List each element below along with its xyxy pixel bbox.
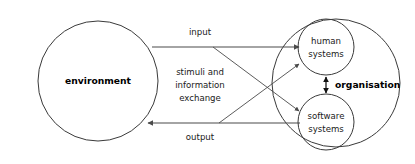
software-systems-label-line-1: software [308, 111, 345, 121]
stimuli-label-line-1: stimuli and [176, 67, 224, 77]
stimuli-label-line-2: information [175, 80, 225, 90]
input-label: input [189, 27, 212, 37]
stimuli-label-line-3: exchange [179, 93, 221, 103]
software-systems-label-line-2: systems [308, 124, 344, 134]
output-label: output [186, 132, 215, 142]
human-systems-circle [298, 19, 354, 75]
exchange-arrow-to-human [219, 64, 299, 123]
exchange-arrow-to-software [213, 47, 299, 111]
organisation-label: organisation [335, 79, 400, 90]
software-systems-circle [298, 94, 354, 150]
environment-label: environment [65, 75, 132, 86]
human-systems-label-line-1: human [311, 36, 341, 46]
diagram-canvas: environment input output stimuli and inf… [0, 0, 415, 164]
human-systems-label-line-2: systems [308, 49, 344, 59]
diagram-svg: environment input output stimuli and inf… [0, 0, 415, 164]
